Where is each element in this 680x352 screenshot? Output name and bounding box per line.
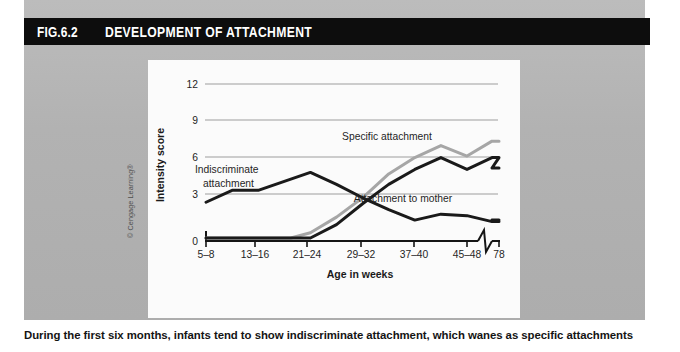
x-tick-2: 21–24 [293,249,322,260]
figure-number: FIG.6.2 [37,24,78,40]
y-tick-0: 0 [192,236,198,247]
x-tick-6: 78 [493,249,505,260]
figure-title-bar: FIG.6.2 DEVELOPMENT OF ATTACHMENT [24,18,650,45]
x-axis-title: Age in weeks [327,268,394,280]
x-tick-4: 37–40 [400,249,429,260]
annotation-specific-attachment: Specific attachment [342,131,432,142]
x-axis-tick-labels: 5–8 13–16 21–24 29–32 37–40 45–48 78 [197,249,505,260]
x-tick-0: 5–8 [197,249,214,260]
annotation-indiscriminate-line2: attachment [203,178,254,189]
caption-band: During the first six months, infants ten… [0,320,680,352]
copyright-credit: © Cengage Learning® [126,164,135,238]
annotation-indiscriminate-line1: Indiscriminate [195,164,259,175]
y-tick-6: 6 [192,152,198,163]
annotation-attachment-to-mother: Attachment to mother [354,193,453,204]
attachment-line-chart: 12 9 6 3 0 Intensity score 5–8 [148,60,520,318]
y-axis-title: Intensity score [154,128,166,202]
figure-caption: During the first six months, infants ten… [24,328,664,342]
y-tick-9: 9 [192,115,198,126]
x-tick-5: 45–48 [453,249,482,260]
x-tick-3: 29–32 [347,249,376,260]
chart-plot-card: 12 9 6 3 0 Intensity score 5–8 [148,60,520,318]
y-axis: 12 9 6 3 0 [187,79,199,247]
y-tick-3: 3 [192,189,198,200]
figure-title: DEVELOPMENT OF ATTACHMENT [105,24,312,40]
y-tick-12: 12 [187,79,199,90]
x-tick-1: 13–16 [241,249,270,260]
